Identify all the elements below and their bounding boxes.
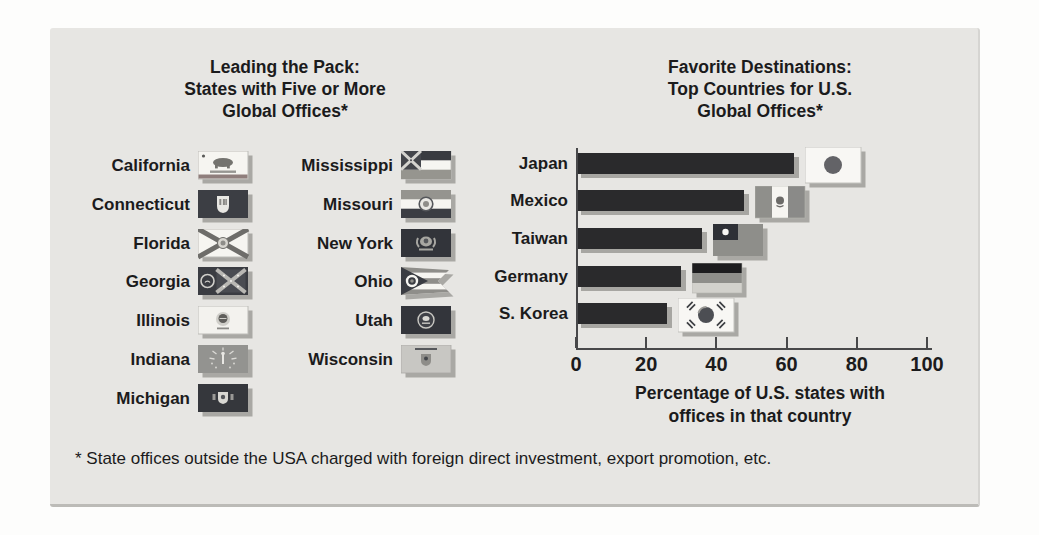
country-flag-taiwan — [713, 224, 768, 261]
x-axis-caption: Percentage of U.S. states with offices i… — [576, 382, 944, 428]
bar-s-korea — [576, 303, 667, 324]
x-axis-tick-20 — [645, 337, 647, 348]
country-flag-germany — [692, 263, 747, 298]
x-axis-caption-line-2: offices in that country — [576, 405, 944, 428]
state-label-illinois: Illinois — [50, 310, 190, 331]
left-title-line-1: Leading the Pack: — [75, 56, 495, 78]
japan-flag-icon — [805, 147, 866, 188]
state-label-utah: Utah — [245, 310, 393, 331]
state-label-mississippi: Mississippi — [245, 155, 393, 176]
right-title-line-3: Global Offices* — [565, 100, 955, 122]
right-title-line-1: Favorite Destinations: — [565, 56, 955, 78]
state-label-connecticut: Connecticut — [50, 194, 190, 215]
wisconsin-flag-icon — [401, 345, 456, 378]
country-flag-s-korea — [678, 298, 739, 337]
left-title-line-3: Global Offices* — [75, 100, 495, 122]
bar-germany — [576, 266, 681, 287]
state-label-missouri: Missouri — [245, 194, 393, 215]
x-axis-tick-label-60: 60 — [765, 353, 809, 376]
country-label-germany: Germany — [428, 266, 568, 287]
taiwan-flag-icon — [713, 224, 768, 261]
country-flag-japan — [805, 147, 866, 188]
right-title-line-2: Top Countries for U.S. — [565, 78, 955, 100]
state-label-indiana: Indiana — [50, 349, 190, 370]
bar-japan — [576, 153, 794, 174]
x-axis-tick-label-80: 80 — [835, 353, 879, 376]
state-label-ohio: Ohio — [245, 271, 393, 292]
x-axis-line — [576, 348, 932, 350]
x-axis-tick-80 — [856, 337, 858, 348]
state-label-georgia: Georgia — [50, 271, 190, 292]
state-label-michigan: Michigan — [50, 388, 190, 409]
germany-flag-icon — [692, 263, 747, 298]
x-axis-caption-line-1: Percentage of U.S. states with — [576, 382, 944, 405]
state-flag-wisconsin — [401, 345, 456, 378]
x-axis-tick-label-100: 100 — [905, 353, 949, 376]
x-axis-tick-100 — [926, 337, 928, 348]
right-section-title: Favorite Destinations: Top Countries for… — [565, 56, 955, 122]
figure-panel: Leading the Pack: States with Five or Mo… — [50, 28, 980, 507]
state-flag-michigan — [198, 384, 253, 417]
s-korea-flag-icon — [678, 298, 739, 337]
x-axis-tick-0 — [575, 337, 577, 348]
state-label-california: California — [50, 155, 190, 176]
x-axis-tick-label-40: 40 — [694, 353, 738, 376]
country-label-s-korea: S. Korea — [428, 303, 568, 324]
country-label-taiwan: Taiwan — [428, 228, 568, 249]
michigan-flag-icon — [198, 384, 253, 417]
x-axis-tick-40 — [715, 337, 717, 348]
state-label-florida: Florida — [50, 233, 190, 254]
bar-taiwan — [576, 228, 702, 249]
left-title-line-2: States with Five or More — [75, 78, 495, 100]
footnote: * State offices outside the USA charged … — [75, 449, 961, 469]
mexico-flag-icon — [755, 186, 810, 223]
state-label-wisconsin: Wisconsin — [245, 349, 393, 370]
country-flag-mexico — [755, 186, 810, 223]
x-axis-tick-60 — [786, 337, 788, 348]
footnote-text: * State offices outside the USA charged … — [75, 449, 771, 468]
bar-mexico — [576, 190, 744, 211]
y-axis-line — [576, 148, 578, 350]
x-axis-tick-label-20: 20 — [624, 353, 668, 376]
country-label-japan: Japan — [428, 153, 568, 174]
state-label-new-york: New York — [245, 233, 393, 254]
left-section-title: Leading the Pack: States with Five or Mo… — [75, 56, 495, 122]
x-axis-tick-label-0: 0 — [554, 353, 598, 376]
figure-page: Leading the Pack: States with Five or Mo… — [0, 0, 1039, 535]
country-label-mexico: Mexico — [428, 190, 568, 211]
